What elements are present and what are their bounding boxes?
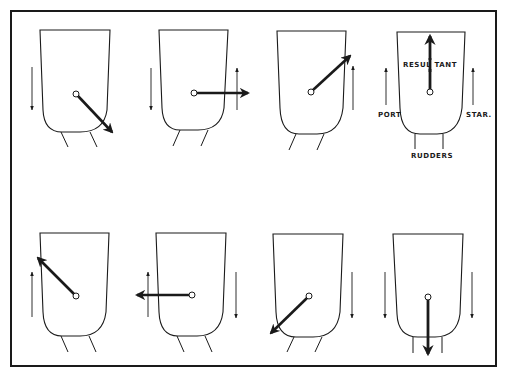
rudder-left bbox=[61, 336, 68, 352]
panel-5 bbox=[32, 233, 109, 352]
resultant-arrow bbox=[38, 258, 74, 294]
hull-outline bbox=[40, 233, 109, 336]
pivot-point bbox=[73, 293, 79, 299]
pivot-point bbox=[306, 293, 312, 299]
port-label: PORT bbox=[378, 111, 401, 119]
hull-outline bbox=[277, 31, 346, 134]
panel-3 bbox=[277, 31, 353, 150]
panel-2 bbox=[151, 30, 248, 146]
rudder-left bbox=[61, 132, 68, 147]
pivot-point bbox=[191, 90, 197, 96]
panel-7 bbox=[271, 234, 352, 352]
rudder-left bbox=[173, 130, 180, 146]
panel-4: RESUL TANT PORT STAR. RUDDERS bbox=[378, 32, 492, 160]
panel-6 bbox=[137, 233, 236, 352]
panel-1 bbox=[32, 30, 112, 147]
hull-outline bbox=[156, 233, 226, 336]
panel-8 bbox=[385, 234, 472, 354]
starboard-label: STAR. bbox=[466, 111, 492, 119]
rudder-right bbox=[315, 337, 322, 352]
hull-outline bbox=[159, 30, 228, 130]
rudder-right bbox=[205, 336, 212, 352]
rudder-left bbox=[177, 336, 184, 352]
rudder-right bbox=[89, 336, 96, 352]
boat-force-diagram: RESUL TANT PORT STAR. RUDDERS bbox=[0, 0, 505, 374]
pivot-point bbox=[427, 89, 433, 95]
pivot-point bbox=[189, 292, 195, 298]
pivot-point bbox=[425, 294, 431, 300]
rudder-right bbox=[201, 130, 208, 146]
resultant-label: RESUL TANT bbox=[403, 61, 457, 69]
rudder-right bbox=[90, 132, 97, 147]
hull-outline bbox=[40, 30, 110, 132]
pivot-point bbox=[73, 91, 79, 97]
rudders-label: RUDDERS bbox=[411, 152, 453, 160]
rudder-left bbox=[289, 134, 296, 150]
rudder-left bbox=[287, 337, 294, 352]
rudder-right bbox=[317, 134, 324, 150]
pivot-point bbox=[308, 89, 314, 95]
